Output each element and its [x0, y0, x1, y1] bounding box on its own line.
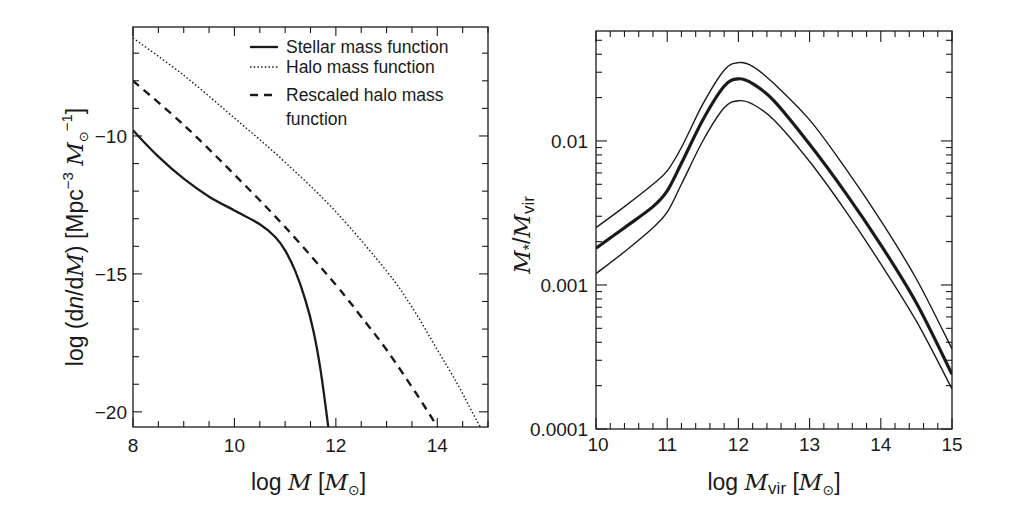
right-plot-frame	[596, 31, 952, 429]
left-x-axis-title: log M [M⊙]	[251, 469, 366, 498]
right-y-axis-title: M*/Mvir	[509, 196, 538, 275]
left-chart-stellar-halo-mass-functions: 8101214−10−15−20Stellar mass functionHal…	[58, 27, 488, 498]
left-x-tick-label: 10	[224, 435, 245, 456]
right-y-tick-label: 0.0001	[530, 419, 588, 440]
right-x-tick-label: 10	[587, 434, 608, 455]
figure-canvas: 8101214−10−15−20Stellar mass functionHal…	[0, 0, 1010, 525]
right-chart-stellar-to-halo-mass-ratio: 1011121314150.00010.0010.01log Mvir [M⊙]…	[509, 31, 963, 498]
right-y-tick-label: 0.001	[540, 275, 588, 296]
left-y-tick-label: −20	[95, 402, 127, 423]
series-mean-relation-line	[596, 79, 952, 374]
series-dashed-line	[133, 81, 437, 427]
right-x-tick-label: 15	[941, 434, 962, 455]
series-lower-bound-line	[596, 101, 952, 389]
figure: 8101214−10−15−20Stellar mass functionHal…	[0, 0, 1010, 525]
legend: Stellar mass functionHalo mass functionR…	[250, 37, 448, 129]
legend-label-cont: function	[286, 109, 347, 129]
left-x-tick-label: 8	[128, 435, 139, 456]
left-x-tick-label: 12	[325, 435, 346, 456]
legend-label: Rescaled halo mass	[286, 85, 444, 105]
left-y-tick-label: −10	[95, 126, 127, 147]
right-x-tick-label: 12	[728, 434, 749, 455]
left-y-axis-title: log (dn/dM) [Mpc−3 M⊙−1]	[58, 108, 91, 366]
left-x-tick-label: 14	[427, 435, 449, 456]
right-y-tick-label: 0.01	[551, 131, 588, 152]
series-upper-bound-line	[596, 62, 952, 349]
legend-label: Halo mass function	[286, 57, 435, 77]
right-x-tick-label: 14	[870, 434, 892, 455]
legend-label: Stellar mass function	[286, 37, 448, 57]
left-y-tick-label: −15	[95, 264, 127, 285]
right-x-tick-label: 11	[657, 434, 677, 455]
right-x-tick-label: 13	[799, 434, 820, 455]
right-x-axis-title: log Mvir [M⊙]	[707, 469, 840, 498]
